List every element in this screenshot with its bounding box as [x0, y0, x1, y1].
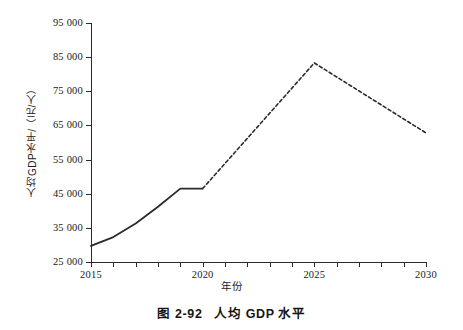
y-axis-title: 人均GDP水平/（元/人）: [25, 50, 41, 230]
series-line: [203, 63, 426, 189]
data-series-layer: [91, 23, 427, 263]
figure-container: 人均GDP水平/（元/人） 25 00035 00045 00055 00065…: [0, 0, 463, 330]
y-tick-label: 75 000: [53, 86, 83, 97]
y-tick-label: 65 000: [53, 120, 83, 131]
plot-area: 25 00035 00045 00055 00065 00075 00085 0…: [91, 23, 426, 262]
x-axis-title: 年份: [0, 278, 463, 293]
y-tick-label: 35 000: [53, 223, 83, 234]
y-tick-label: 45 000: [53, 188, 83, 199]
y-tick-label: 25 000: [53, 257, 83, 268]
y-tick-label: 95 000: [53, 18, 83, 29]
y-tick-label: 85 000: [53, 52, 83, 63]
series-line: [91, 189, 203, 246]
caption-title: 人均 GDP 水平: [214, 307, 305, 321]
y-tick-label: 55 000: [53, 154, 83, 165]
figure-caption: 图 2-92人均 GDP 水平: [0, 303, 463, 322]
caption-number: 图 2-92: [157, 307, 202, 321]
